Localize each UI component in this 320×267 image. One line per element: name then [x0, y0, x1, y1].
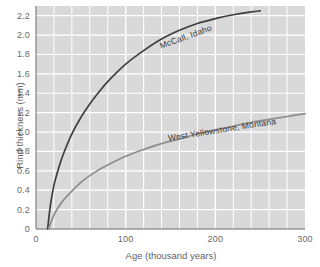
x-tick-label: 100	[118, 234, 134, 244]
x-axis-title: Age (thousand years)	[36, 250, 306, 261]
y-tick-label: 1.8	[0, 49, 30, 59]
x-tick-label: 300	[297, 234, 313, 244]
y-axis-title: Rind thickness (mm)	[14, 61, 25, 191]
y-tick-label: 0.2	[0, 205, 30, 215]
y-tick-label: 2.2	[0, 11, 30, 21]
chart-figure: 00.20.40.60.81.01.21.41.61.82.02.2 01002…	[0, 0, 320, 267]
y-tick-label: 0	[0, 224, 30, 234]
x-tick-label: 200	[208, 234, 224, 244]
y-tick-label: 2.0	[0, 30, 30, 40]
x-tick-label: 0	[33, 234, 38, 244]
